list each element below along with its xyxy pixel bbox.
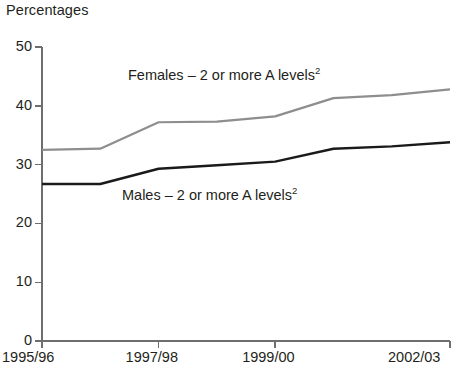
series-annotation-footnote: 2 [315, 65, 320, 76]
series-annotation-females: Females – 2 or more A levels2 [128, 68, 320, 83]
x-tick-label: 1999/00 [242, 350, 294, 365]
y-tick-label: 10 [2, 274, 32, 289]
y-tick-label: 40 [2, 98, 32, 113]
x-tick-label: 2002/03 [388, 350, 440, 365]
series-annotation-text: Females – 2 or more A levels [128, 67, 315, 83]
series-annotation-text: Males – 2 or more A levels [122, 187, 292, 203]
y-tick-label: 0 [2, 333, 32, 348]
chart-figure: Percentages 01020304050 1995/961997/9819… [0, 0, 476, 371]
y-tick-label: 20 [2, 215, 32, 230]
chart-plot-area [0, 0, 476, 371]
x-tick-label: 1995/96 [2, 350, 54, 365]
series-annotation-males: Males – 2 or more A levels2 [122, 188, 297, 203]
y-tick-label: 50 [2, 39, 32, 54]
series-line-females [42, 89, 450, 150]
x-tick-label: 1997/98 [126, 350, 178, 365]
series-annotation-footnote: 2 [292, 185, 297, 196]
chart-series [42, 89, 450, 184]
y-tick-label: 30 [2, 157, 32, 172]
